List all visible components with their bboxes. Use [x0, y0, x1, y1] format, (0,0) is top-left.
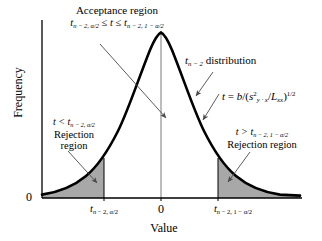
x-axis-label: Value: [118, 221, 210, 236]
right-condition-operator: t >: [236, 126, 251, 137]
acceptance-t2-subscript: n − 2, 1 − α/2: [127, 22, 164, 29]
left-rejection-line-1: Rejection: [30, 129, 118, 141]
x-tick-label-left-critical: tn − 2, α/2: [58, 203, 150, 215]
tick-left-subscript-alpha: α/2: [110, 208, 118, 215]
y-axis-label: Frequency: [11, 53, 26, 133]
right-condition-subscript: n − 2, 1 − α/2: [253, 131, 288, 138]
tick-right-subscript-minus: − 2, 1 −: [220, 208, 244, 215]
formula-arrow: [203, 94, 219, 120]
distribution-label: tn − 2 distribution: [185, 54, 256, 68]
formula-power: 1/2: [287, 90, 296, 97]
y-axis-zero-label: 0: [26, 190, 32, 205]
left-condition-subscript: n − 2, α/2: [70, 121, 95, 128]
test-statistic-formula: t = b/(s2y · x/Lxx)1/2: [222, 90, 296, 104]
distribution-label-arrow: [196, 72, 213, 96]
left-rejection-line-2: region: [30, 140, 118, 152]
right-rejection-region-annotation: t > tn − 2, 1 − α/2 Rejection region: [206, 126, 318, 150]
formula-s-subscript: y · x: [257, 96, 268, 103]
acceptance-region-title: Acceptance region: [32, 4, 202, 16]
acceptance-t1-subscript: n − 2, α/2: [73, 22, 99, 29]
acceptance-region-inequality: tn − 2, α/2 ≤ t ≤ tn − 2, 1 − α/2: [32, 17, 202, 29]
left-condition-operator: t <: [53, 116, 68, 127]
acceptance-operator-2: ≤: [113, 17, 124, 28]
right-rejection-line-1: Rejection region: [206, 139, 318, 151]
tick-right-subscript-alpha: α/2: [244, 208, 252, 215]
acceptance-operator-1: ≤: [99, 17, 110, 28]
t-distribution-curve: [42, 33, 300, 196]
x-tick-label-zero: 0: [140, 202, 182, 217]
acceptance-region-annotation: Acceptance region tn − 2, α/2 ≤ t ≤ tn −…: [32, 4, 202, 29]
formula-open-paren: /(: [242, 90, 249, 102]
right-rejection-condition: t > tn − 2, 1 − α/2: [206, 126, 318, 139]
t-distribution-hypothesis-test-figure: Acceptance region tn − 2, α/2 ≤ t ≤ tn −…: [0, 0, 322, 241]
tick-left-subscript-minus: − 2,: [96, 208, 109, 215]
acceptance-region-arrow: [100, 44, 166, 118]
distribution-text: distribution: [203, 54, 256, 66]
left-rejection-region-annotation: t < tn − 2, α/2 Rejection region: [30, 116, 118, 152]
left-rejection-condition: t < tn − 2, α/2: [30, 116, 118, 129]
formula-equals: =: [225, 90, 237, 102]
x-tick-label-right-critical: tn − 2, 1 − α/2: [178, 203, 288, 215]
distribution-subscript: n − 2: [188, 60, 203, 67]
